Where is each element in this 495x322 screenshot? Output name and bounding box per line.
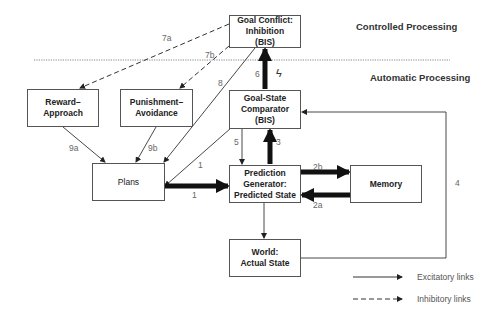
edge-label-7a: 7a [162,33,171,43]
node-memory: Memory [350,165,422,203]
node-memory-label: Memory [370,179,403,190]
legend-excitatory-label: Excitatory links [417,272,474,282]
edge-label-1-diagonal: 1 [198,160,203,170]
node-punishment-avoidance-label: Punishment– Avoidance [130,97,183,119]
edge-label-9a: 9a [69,143,78,153]
lightning-bolt-icon: ϟ [276,67,282,79]
edge-label-6: 6 [255,69,260,79]
node-prediction-generator-label: Prediction Generator: Predicted State [234,168,296,201]
region-controlled-label: Controlled Processing [356,21,457,32]
edge-label-5: 5 [234,137,239,147]
node-plans: Plans [92,163,165,201]
node-goal-state-comparator-label: Goal-State Comparator (BIS) [241,93,289,126]
node-reward-approach-label: Reward– Approach [43,97,83,119]
region-automatic-label: Automatic Processing [370,72,470,83]
node-punishment-avoidance: Punishment– Avoidance [120,89,193,127]
edge-1-diagonal [165,128,231,186]
node-goal-conflict: Goal Conflict: Inhibition (BIS) [229,15,301,48]
node-goal-conflict-label: Goal Conflict: Inhibition (BIS) [237,15,293,48]
node-reward-approach: Reward– Approach [27,89,99,127]
node-world: World: Actual State [229,239,301,277]
edge-label-2a: 2a [313,200,322,210]
legend-inhibitory-label: Inhibitory links [417,294,471,304]
edge-label-1-thick: 1 [192,190,197,200]
node-world-label: World: Actual State [240,247,289,269]
edge-label-3: 3 [276,137,281,147]
node-plans-label: Plans [118,177,139,188]
node-goal-state-comparator: Goal-State Comparator (BIS) [229,90,301,129]
edge-label-2b: 2b [313,162,322,172]
edge-label-4: 4 [455,178,460,188]
edge-label-7b: 7b [205,50,214,60]
edge-label-9b: 9b [148,143,157,153]
node-prediction-generator: Prediction Generator: Predicted State [229,165,301,203]
edge-label-8: 8 [218,78,223,88]
